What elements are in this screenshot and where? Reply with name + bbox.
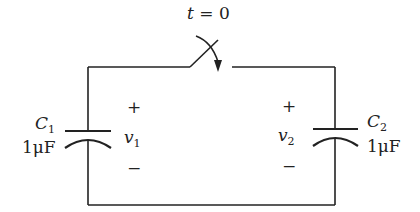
v2-minus: − (282, 158, 296, 175)
v1-minus: − (127, 160, 141, 177)
v1-subscript: 1 (134, 137, 141, 150)
time-value: = 0 (199, 3, 229, 23)
c2-name: C2 (367, 113, 387, 130)
switch-arrow-head-icon (214, 60, 222, 72)
c2-subscript: 2 (380, 121, 387, 134)
time-variable: t (187, 3, 194, 23)
v2-subscript: 2 (288, 135, 295, 148)
c1-subscript: 1 (48, 123, 55, 136)
c1-name: C1 (35, 115, 55, 132)
v1-plus: + (127, 99, 141, 116)
v2-label: v2 (278, 127, 295, 144)
c1-symbol: C (35, 113, 48, 133)
v2-symbol: v (278, 125, 288, 145)
c2-value: 1μF (367, 138, 401, 155)
circuit-diagram (0, 0, 420, 212)
v1-label: v1 (124, 129, 141, 146)
c2-symbol: C (367, 111, 380, 131)
v1-symbol: v (124, 127, 134, 147)
v2-plus: + (282, 98, 296, 115)
switch-label: t = 0 (187, 5, 230, 22)
c1-value: 1μF (22, 139, 56, 156)
